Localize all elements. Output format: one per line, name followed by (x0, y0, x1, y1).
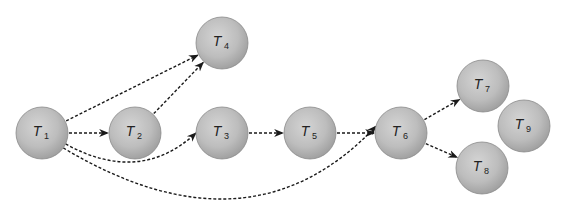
node-label: T (392, 123, 402, 139)
node-subscript: 5 (312, 131, 317, 141)
node-circle (457, 60, 509, 112)
node-t1: T1 (16, 107, 68, 159)
node-subscript: 6 (403, 131, 408, 141)
node-label: T (515, 116, 525, 132)
node-circle (375, 107, 427, 159)
node-t4: T4 (196, 17, 248, 69)
node-label: T (213, 123, 223, 139)
node-circle (196, 17, 248, 69)
nodes-layer: T1T2T3T4T5T6T7T8T9 (16, 17, 550, 194)
node-t9: T9 (498, 100, 550, 152)
node-subscript: 3 (224, 131, 229, 141)
node-t5: T5 (284, 107, 336, 159)
node-t8: T8 (456, 142, 508, 194)
node-circle (16, 107, 68, 159)
node-circle (109, 107, 161, 159)
node-circle (196, 107, 248, 159)
node-subscript: 4 (224, 41, 229, 51)
node-t3: T3 (196, 107, 248, 159)
node-subscript: 1 (44, 131, 49, 141)
node-label: T (474, 76, 484, 92)
edge-t6-to-t7 (424, 99, 459, 119)
node-subscript: 7 (485, 84, 490, 94)
node-circle (284, 107, 336, 159)
node-label: T (301, 123, 311, 139)
task-dependency-diagram: T1T2T3T4T5T6T7T8T9 (0, 0, 569, 223)
node-t7: T7 (457, 60, 509, 112)
node-t6: T6 (375, 107, 427, 159)
edge-t2-to-t4 (154, 62, 203, 113)
node-subscript: 2 (137, 131, 142, 141)
node-subscript: 9 (526, 124, 531, 134)
node-label: T (473, 158, 483, 174)
node-label: T (213, 33, 223, 49)
node-label: T (33, 123, 43, 139)
node-circle (456, 142, 508, 194)
edge-t6-to-t8 (426, 144, 457, 158)
node-t2: T2 (109, 107, 161, 159)
node-circle (498, 100, 550, 152)
node-label: T (126, 123, 136, 139)
node-subscript: 8 (484, 166, 489, 176)
